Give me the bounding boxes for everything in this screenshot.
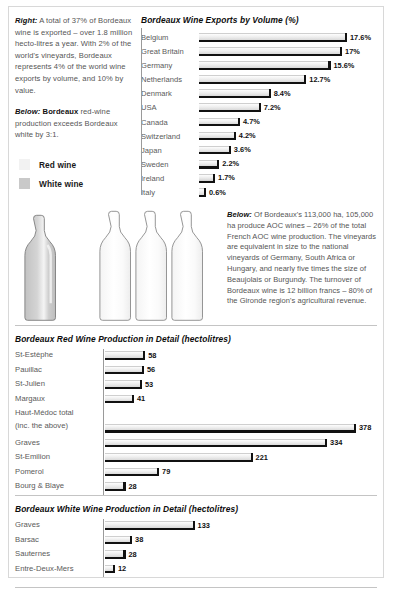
detail-category-label: Haut-Médoc total(inc. the above) bbox=[15, 408, 99, 430]
table-row: Great Britain17% bbox=[141, 46, 377, 60]
exports-bar-value: 7.2% bbox=[264, 103, 281, 112]
exports-bar-track: 17% bbox=[199, 46, 377, 60]
detail-category-label: Graves bbox=[15, 520, 99, 529]
exports-bar-value: 17% bbox=[345, 47, 360, 56]
legend-label-red: Red wine bbox=[39, 160, 76, 170]
exports-category-label: USA bbox=[141, 103, 197, 112]
detail-chart-axis bbox=[103, 349, 104, 495]
detail-category-label: Pauillac bbox=[15, 365, 99, 374]
table-row: Bourg & Blaye28 bbox=[15, 480, 377, 495]
intro-right-paragraph: Right: A total of 37% of Bordeaux wine i… bbox=[15, 15, 133, 96]
table-row: St-Emilion221 bbox=[15, 451, 377, 466]
table-row: Sweden2.2% bbox=[141, 159, 377, 173]
exports-category-label: Canada bbox=[141, 118, 197, 127]
exports-bar-track: 2.2% bbox=[199, 159, 377, 173]
exports-bar-value: 8.4% bbox=[274, 89, 291, 98]
detail-category-label: St-Estèphe bbox=[15, 350, 99, 359]
detail-category-label: Entre-Deux-Mers bbox=[15, 564, 99, 573]
exports-bar-value: 17.6% bbox=[350, 33, 371, 42]
table-row: Japan3.6% bbox=[141, 145, 377, 159]
below-callout-lead: Below: bbox=[227, 210, 252, 219]
detail-category-label: St-Julien bbox=[15, 379, 99, 388]
table-row: Canada4.7% bbox=[141, 117, 377, 131]
infographic-page: Right: A total of 37% of Bordeaux wine i… bbox=[0, 0, 395, 590]
detail-category-label: St-Emilion bbox=[15, 452, 99, 461]
detail-bar-value: 53 bbox=[145, 380, 153, 389]
bottle-red-wine-3 bbox=[172, 211, 203, 320]
red-section-rule bbox=[15, 325, 377, 326]
red-section-rows: St-Estèphe58Pauillac56St-Julien53Margaux… bbox=[15, 349, 377, 495]
detail-category-label: Graves bbox=[15, 438, 99, 447]
table-row: Switzerland4.2% bbox=[141, 131, 377, 145]
exports-category-label: Denmark bbox=[141, 89, 197, 98]
detail-category-label: Pomerol bbox=[15, 467, 99, 476]
detail-bar-value: 41 bbox=[137, 394, 145, 403]
below-callout: Below: Of Bordeaux's 113,000 ha, 105,000… bbox=[227, 210, 379, 307]
detail-bar-value: 28 bbox=[128, 550, 136, 559]
intro-column: Right: A total of 37% of Bordeaux wine i… bbox=[15, 15, 133, 151]
exports-bar-value: 4.7% bbox=[243, 117, 260, 126]
detail-category-label: Bourg & Blaye bbox=[15, 481, 99, 490]
exports-bar-value: 4.2% bbox=[239, 131, 256, 140]
exports-bar-track: 0.6% bbox=[199, 187, 377, 201]
exports-bar-value: 1.7% bbox=[218, 173, 235, 182]
exports-chart-title: Bordeaux Wine Exports by Volume (%) bbox=[141, 15, 377, 25]
table-row: Haut-Médoc total(inc. the above)378 bbox=[15, 407, 377, 436]
table-row: Pomerol79 bbox=[15, 466, 377, 481]
intro-right-text: A total of 37% of Bordeaux wine is expor… bbox=[15, 16, 132, 95]
legend-item-red: Red wine bbox=[19, 155, 139, 174]
table-row: Netherlands12.7% bbox=[141, 74, 377, 88]
table-row: St-Estèphe58 bbox=[15, 349, 377, 364]
red-section-title: Bordeaux Red Wine Production in Detail (… bbox=[15, 334, 231, 344]
exports-chart-rows: Belgium17.6%Great Britain17%Germany15.6%… bbox=[141, 32, 377, 201]
bottle-red-wine-1 bbox=[100, 211, 131, 320]
exports-category-label: Japan bbox=[141, 146, 197, 155]
intro-below-lead: Below: bbox=[15, 107, 40, 116]
detail-bar-value: 58 bbox=[148, 351, 156, 360]
detail-bar-value: 56 bbox=[147, 365, 155, 374]
bottles-svg bbox=[19, 209, 224, 327]
bottle-ratio-illustration bbox=[19, 209, 224, 327]
detail-bar-value: 38 bbox=[135, 535, 143, 544]
table-row: St-Julien53 bbox=[15, 378, 377, 393]
exports-bar-value: 12.7% bbox=[309, 75, 330, 84]
exports-category-label: Belgium bbox=[141, 33, 197, 42]
exports-category-label: Sweden bbox=[141, 160, 197, 169]
exports-bar-track: 1.7% bbox=[199, 173, 377, 187]
exports-chart: Bordeaux Wine Exports by Volume (%) Belg… bbox=[141, 15, 377, 201]
exports-category-label: Great Britain bbox=[141, 47, 197, 56]
bottle-red-wine-2 bbox=[136, 211, 167, 320]
intro-right-lead: Right: bbox=[15, 16, 37, 25]
detail-chart-axis bbox=[103, 519, 104, 577]
exports-category-label: Netherlands bbox=[141, 75, 197, 84]
detail-category-label: Margaux bbox=[15, 394, 99, 403]
exports-bar-track: 7.2% bbox=[199, 102, 377, 116]
detail-bar-value: 28 bbox=[128, 482, 136, 491]
detail-bar-value: 378 bbox=[359, 423, 371, 432]
white-wine-swatch-icon bbox=[19, 178, 30, 189]
red-wine-swatch-icon bbox=[19, 159, 30, 170]
exports-bar-value: 2.2% bbox=[222, 159, 239, 168]
exports-bar-track: 4.7% bbox=[199, 117, 377, 131]
white-section-bottom-rule bbox=[15, 587, 377, 588]
legend-item-white: White wine bbox=[19, 174, 139, 193]
table-row: Entre-Deux-Mers12 bbox=[15, 563, 377, 578]
exports-bar-value: 15.6% bbox=[333, 61, 354, 70]
intro-below-bold: Bordeaux bbox=[40, 107, 78, 116]
table-row: USA7.2% bbox=[141, 102, 377, 116]
intro-below-paragraph: Below: Bordeaux red-wine production exce… bbox=[15, 106, 133, 141]
detail-bar-value: 79 bbox=[162, 467, 170, 476]
table-row: Graves133 bbox=[15, 519, 377, 534]
detail-bar-value: 221 bbox=[256, 453, 268, 462]
white-section-rule bbox=[15, 495, 377, 496]
exports-category-label: Ireland bbox=[141, 174, 197, 183]
exports-category-label: Italy bbox=[141, 188, 197, 197]
table-row: Italy0.6% bbox=[141, 187, 377, 201]
exports-category-label: Switzerland bbox=[141, 132, 197, 141]
below-callout-paragraph: Below: Of Bordeaux's 113,000 ha, 105,000… bbox=[227, 210, 379, 307]
exports-bar-value: 0.6% bbox=[209, 188, 226, 197]
table-row: Pauillac56 bbox=[15, 364, 377, 379]
wine-legend: Red wine White wine bbox=[19, 155, 139, 193]
white-section-rows: Graves133Barsac38Sauternes28Entre-Deux-M… bbox=[15, 519, 377, 577]
table-row: Graves334 bbox=[15, 437, 377, 452]
